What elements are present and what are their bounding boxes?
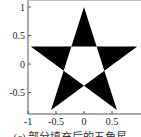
star-point <box>84 71 117 110</box>
star-plot: -1-0.500.5 10.50-0.5 <box>0 0 141 130</box>
x-tick-label: -0.5 <box>48 116 64 127</box>
star-point <box>51 71 84 110</box>
figure-caption: (c) 部分填充后的五角星 <box>0 131 141 137</box>
y-tick-label: 0.5 <box>13 30 26 41</box>
x-tick-label: 0 <box>82 116 87 127</box>
star-point <box>31 46 72 70</box>
star-point <box>71 7 96 46</box>
star-point <box>97 46 138 70</box>
y-tick-label: 1 <box>20 2 25 13</box>
y-tick-label: 0 <box>20 59 25 70</box>
x-tick-label: -1 <box>24 116 32 127</box>
x-ticks: -1-0.500.5 <box>24 111 118 127</box>
star-points <box>31 7 138 110</box>
x-tick-label: 0.5 <box>106 116 119 127</box>
y-tick-label: -0.5 <box>9 87 25 98</box>
